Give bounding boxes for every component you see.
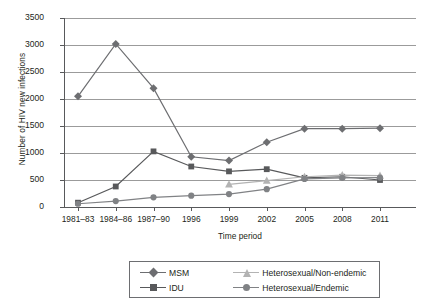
circle-marker xyxy=(75,201,81,207)
legend-label-heterosexual-non-endemic: Heterosexual/Non-endemic xyxy=(259,268,366,278)
legend-label-idu: IDU xyxy=(166,283,184,293)
y-tick-label: 1500 xyxy=(4,120,44,130)
x-axis-title: Time period xyxy=(64,231,416,241)
circle-marker xyxy=(113,198,119,204)
square-marker xyxy=(151,148,157,154)
legend-item-msm: MSM xyxy=(130,267,233,278)
circle-marker xyxy=(226,191,232,197)
square-marker xyxy=(226,168,232,174)
series-heterosexual-endemic xyxy=(75,174,383,206)
square-marker xyxy=(188,164,194,170)
diamond-marker xyxy=(187,153,195,161)
y-axis-title: Number of HIV new infections xyxy=(17,24,27,194)
x-tick-label: 2011 xyxy=(350,214,410,224)
square-marker xyxy=(113,184,119,190)
circle-marker-icon xyxy=(233,282,259,293)
triangle-marker-icon xyxy=(233,267,259,278)
legend-row-1: MSM Heterosexual/Non-endemic xyxy=(130,265,379,280)
chart-legend: MSM Heterosexual/Non-endemic IDU Hete xyxy=(129,261,380,298)
circle-marker xyxy=(301,176,307,182)
legend-item-idu: IDU xyxy=(130,282,233,293)
y-tick-label: 2000 xyxy=(4,93,44,103)
circle-marker xyxy=(150,194,156,200)
legend-label-msm: MSM xyxy=(166,268,189,278)
legend-row-2: IDU Heterosexual/Endemic xyxy=(130,280,379,295)
legend-item-heterosexual-non-endemic: Heterosexual/Non-endemic xyxy=(233,267,379,278)
y-tick-label: 3000 xyxy=(4,39,44,49)
y-tick-label: 1000 xyxy=(4,147,44,157)
series-msm xyxy=(74,40,384,165)
chart-figure: Number of HIV new infections 05001000150… xyxy=(0,0,432,306)
diamond-marker xyxy=(74,92,82,100)
y-tick-label: 3500 xyxy=(4,12,44,22)
circle-marker xyxy=(188,193,194,199)
diamond-marker xyxy=(225,157,233,165)
diamond-marker-icon xyxy=(140,267,166,278)
square-marker xyxy=(264,166,270,172)
circle-marker xyxy=(377,174,383,180)
y-tick-label: 0 xyxy=(4,201,44,211)
square-marker-icon xyxy=(140,282,166,293)
diamond-marker xyxy=(263,138,271,146)
circle-marker xyxy=(264,186,270,192)
plot-area: 0500100015002000250030003500 1981–831984… xyxy=(64,18,416,207)
diamond-marker xyxy=(301,125,309,133)
data-series-group xyxy=(64,18,416,208)
diamond-marker xyxy=(338,125,346,133)
y-tick-label: 2500 xyxy=(4,66,44,76)
y-tick-label: 500 xyxy=(4,174,44,184)
diamond-marker xyxy=(376,124,384,132)
legend-label-heterosexual-endemic: Heterosexual/Endemic xyxy=(259,283,348,293)
legend-item-heterosexual-endemic: Heterosexual/Endemic xyxy=(233,282,379,293)
circle-marker xyxy=(339,175,345,181)
series-line xyxy=(78,44,380,161)
